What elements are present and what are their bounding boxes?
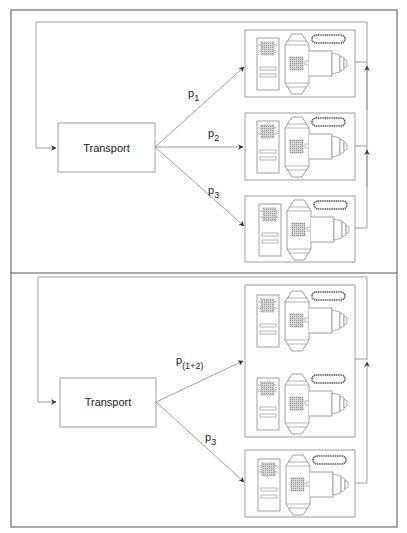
diagram-canvas: Transport p1 p2 p3 Transport p(1+2) <box>0 0 407 533</box>
transport-label: Transport <box>85 396 132 408</box>
flow-label-p1: p1 <box>188 87 199 103</box>
machine-3 <box>245 196 355 262</box>
bottom-panel: Transport p(1+2) p3 <box>38 277 367 517</box>
transport-label: Transport <box>83 142 130 154</box>
machine-2 <box>245 113 355 180</box>
machine-group-1-2 <box>245 285 355 437</box>
flow-label-p3: p3 <box>208 184 219 200</box>
flow-arrow-p1 <box>155 67 244 147</box>
flow-label-p12: p(1+2) <box>176 354 203 371</box>
flow-arrow-p3 <box>156 402 244 482</box>
flow-label-p2: p2 <box>208 127 219 143</box>
flow-label-p3: p3 <box>205 431 216 447</box>
top-panel: Transport p1 p2 p3 <box>36 22 367 262</box>
flow-arrow-p3 <box>155 147 244 226</box>
machine-3 <box>245 450 355 517</box>
machine-1 <box>245 30 355 97</box>
